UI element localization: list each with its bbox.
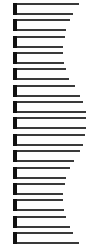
bracket-bottom-line [17,242,79,244]
bracket-unit [0,216,96,228]
bracket-bottom-line [17,209,64,211]
bracket-unit [0,167,96,179]
bracket-top-line [17,232,73,234]
bracket-unit [0,85,96,97]
bracket-top-line [17,19,70,21]
bracket-top-line [17,183,65,185]
bracket-top-line [17,199,63,201]
bracket-bottom-line [17,226,70,228]
bracket-top-line [17,216,66,218]
bracket-stack-diagram [0,0,96,245]
bracket-top-line [17,101,83,103]
bracket-unit [0,52,96,64]
bracket-unit [0,36,96,48]
bracket-bottom-line [17,46,63,48]
bracket-unit [0,232,96,244]
bracket-bottom-line [17,144,83,146]
bracket-unit [0,199,96,211]
bracket-bottom-line [17,160,74,162]
bracket-bottom-line [17,78,69,80]
bracket-top-line [17,150,80,152]
bracket-unit [0,68,96,80]
bracket-top-line [17,36,65,38]
bracket-unit [0,134,96,146]
bracket-bottom-line [17,95,80,97]
bracket-bottom-line [17,62,64,64]
bracket-bottom-line [17,111,86,113]
bracket-bottom-line [17,13,73,15]
bracket-bottom-line [17,177,66,179]
bracket-top-line [17,68,66,70]
bracket-unit [0,19,96,31]
bracket-bottom-line [17,193,63,195]
bracket-bottom-line [17,29,66,31]
bracket-top-line [17,3,79,5]
bracket-top-line [17,52,63,54]
bracket-top-line [17,167,70,169]
bracket-unit [0,150,96,162]
bracket-unit [0,3,96,15]
bracket-top-line [17,85,75,87]
bracket-unit [0,183,96,195]
bracket-bottom-line [17,127,86,129]
bracket-top-line [17,134,85,136]
bracket-unit [0,101,96,113]
bracket-top-line [17,117,86,119]
bracket-unit [0,117,96,129]
